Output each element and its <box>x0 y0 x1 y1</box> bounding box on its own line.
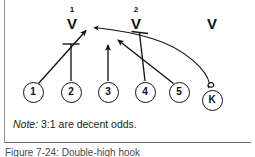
route-player-5 <box>118 40 174 84</box>
defender-marker-1: 1 V <box>62 6 82 31</box>
player-circle-3: 3 <box>98 82 119 103</box>
figure-caption: Figure 7-24: Double-high hook <box>5 147 140 157</box>
player-circle-1: 1 <box>23 82 44 103</box>
player-label-1: 1 <box>30 87 36 97</box>
player-label-2: 2 <box>68 87 74 97</box>
figure-container: 1 V 2 V V 1 2 3 4 5 K Note: 3:1 are dece… <box>0 0 255 157</box>
player-circle-2: 2 <box>61 82 82 103</box>
defender-marker-2: 2 V <box>126 6 146 31</box>
defender-symbol-3: V <box>202 16 222 31</box>
note-label: Note: <box>13 118 38 130</box>
route-player-1 <box>39 31 87 84</box>
player-circle-4: 4 <box>135 82 156 103</box>
player-label-3: 3 <box>105 87 111 97</box>
player-circle-5: 5 <box>169 82 190 103</box>
diagram-note: Note: 3:1 are decent odds. <box>13 118 137 130</box>
note-text: 3:1 are decent odds. <box>38 118 137 130</box>
defender-symbol-2: V <box>126 16 146 31</box>
defender-marker-3: V <box>202 6 222 31</box>
route-player-k-sweep <box>94 28 210 85</box>
route-player-k <box>208 83 214 88</box>
player-circle-k: K <box>202 90 223 111</box>
defender-symbol-1: V <box>62 16 82 31</box>
player-label-4: 4 <box>142 87 148 97</box>
defender-number-2: 2 <box>126 6 146 15</box>
player-label-5: 5 <box>176 87 182 97</box>
player-label-k: K <box>208 95 215 105</box>
defender-number-1: 1 <box>62 6 82 15</box>
